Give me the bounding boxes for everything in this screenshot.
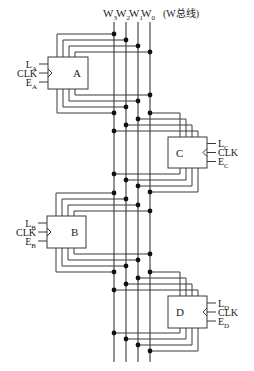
wire [114,290,198,296]
junction-dot [136,276,141,281]
register-a: ALACLKEA [17,32,152,116]
junction-dot [124,123,129,128]
wire [75,89,150,95]
register-box [47,216,86,248]
register-name: A [73,67,81,79]
wire [74,248,150,254]
junction-dot [112,172,117,177]
junction-dot [124,282,129,287]
wire [63,40,126,57]
signal-e-label: EA [26,77,37,91]
register-box [48,57,88,89]
junction-dot [136,203,141,208]
junction-dot [148,209,153,214]
junction-dot [112,288,117,293]
junction-dot [148,349,153,354]
bus-caption: (W总线) [163,7,199,20]
junction-dot [112,191,117,196]
register-b: BLBCLKEB [16,191,152,275]
signal-e-label: EC [218,156,229,170]
junction-dot [148,270,153,275]
registers: ALACLKEACLCCLKECBLBCLKEBDLDCLKED [16,32,239,354]
junction-dot [148,50,153,55]
junction-dot [148,93,153,98]
junction-dot [136,117,141,122]
wire [114,328,180,333]
bus-label-w0: W0 [141,7,155,22]
junction-dot [136,184,141,189]
bus-lines [114,22,150,362]
signal-e-label: ED [218,316,229,330]
signal-e-label: EB [25,236,36,250]
wire [138,278,186,296]
wire [63,89,126,107]
register-name: B [71,226,78,238]
wire [114,131,198,137]
junction-dot [136,343,141,348]
bus-diagram: W3 W2 W1 W0 (W总线) ALACLKEACLCCLKECBLBCLK… [0,0,254,371]
junction-dot [112,270,117,275]
register-c: CLCCLKEC [112,111,239,195]
wire [62,199,126,216]
junction-dot [148,190,153,195]
junction-dot [124,197,129,202]
junction-dot [124,337,129,342]
junction-dot [112,111,117,116]
register-box [168,296,207,328]
wire [75,52,150,57]
wire [114,168,180,174]
junction-dot [124,264,129,269]
register-d: DLDCLKED [112,270,239,354]
junction-dot [148,111,153,116]
wire [74,211,150,216]
junction-dot [124,38,129,43]
junction-dot [124,178,129,183]
bus-title: W3 W2 W1 W0 (W总线) [103,7,199,22]
junction-dot [136,258,141,263]
wire [138,328,192,345]
junction-dot [136,99,141,104]
wire [138,119,186,137]
junction-dot [136,44,141,49]
register-name: C [176,147,183,159]
junction-dot [112,32,117,37]
wire [138,168,192,186]
junction-dot [112,331,117,336]
wire [62,248,126,266]
register-box [168,137,207,168]
junction-dot [124,105,129,110]
register-name: D [176,306,184,318]
junction-dot [148,252,153,257]
junction-dot [112,129,117,134]
